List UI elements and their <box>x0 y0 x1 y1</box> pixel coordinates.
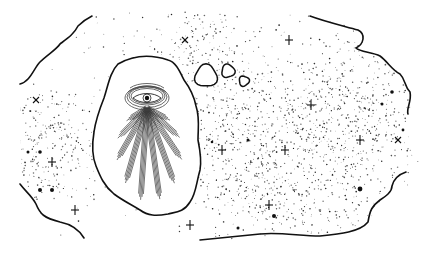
star-dot-icon <box>247 139 250 142</box>
star-dot-icon <box>402 129 405 132</box>
star-cross-icon <box>182 37 188 43</box>
star-cross-icon <box>395 137 401 143</box>
star-dot-icon <box>211 141 214 144</box>
star-plus-icon <box>48 157 56 167</box>
star-dot-icon <box>272 214 276 218</box>
star-plus-icon <box>218 145 226 155</box>
star-markers <box>27 35 405 230</box>
star-dot-icon <box>27 151 30 154</box>
star-plus-icon <box>71 205 79 215</box>
bubble-1 <box>195 64 218 86</box>
star-dot-icon <box>50 188 54 192</box>
bubble-2 <box>222 64 235 77</box>
star-dot-icon <box>38 150 42 154</box>
region-outline <box>20 16 410 240</box>
star-dot-icon <box>358 187 363 192</box>
eye-pupil-icon <box>145 96 149 100</box>
star-plus-icon <box>186 220 194 230</box>
star-cross-icon <box>33 97 39 103</box>
star-dot-icon <box>390 90 394 94</box>
cloud-shape <box>93 57 201 216</box>
starfield-illustration <box>0 0 444 256</box>
star-plus-icon <box>307 100 315 110</box>
star-plus-icon <box>285 35 293 45</box>
bubble-3 <box>239 76 249 86</box>
star-dot-icon <box>381 103 384 106</box>
star-dot-icon <box>237 227 240 230</box>
star-dot-icon <box>38 188 42 192</box>
bubble-shapes <box>195 64 250 87</box>
